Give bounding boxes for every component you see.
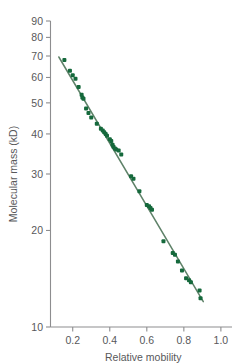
data-point	[89, 116, 93, 120]
y-tick-label-80: 80	[31, 31, 43, 43]
x-tick-label-1.0: 1.0	[214, 334, 229, 346]
data-point	[150, 208, 154, 212]
y-axis-title: Molecular mass (kD)	[7, 126, 19, 222]
data-point	[119, 153, 123, 157]
data-point	[176, 260, 180, 264]
data-point	[68, 69, 72, 73]
data-point	[74, 77, 78, 81]
data-point	[95, 122, 99, 126]
chart-figure: 1020304050607080900.20.40.60.81.0Relativ…	[0, 0, 241, 364]
data-point	[180, 269, 184, 273]
data-point	[77, 85, 81, 89]
y-tick-label-70: 70	[31, 50, 43, 62]
y-tick-label-20: 20	[31, 224, 43, 236]
data-point	[161, 239, 165, 243]
x-tick-label-0.2: 0.2	[65, 334, 80, 346]
data-point	[81, 97, 85, 101]
x-tick-label-0.6: 0.6	[140, 334, 155, 346]
data-point	[199, 296, 203, 300]
y-tick-label-30: 30	[31, 168, 43, 180]
data-point	[137, 189, 141, 193]
data-point	[109, 139, 113, 143]
data-point	[189, 280, 193, 284]
data-point	[105, 134, 109, 138]
data-point	[62, 58, 66, 62]
x-tick-label-0.4: 0.4	[102, 334, 117, 346]
x-tick-label-0.8: 0.8	[177, 334, 192, 346]
y-tick-label-60: 60	[31, 71, 43, 83]
y-tick-label-50: 50	[31, 97, 43, 109]
semilog-scatter-plot: 1020304050607080900.20.40.60.81.0Relativ…	[0, 0, 241, 364]
y-tick-label-90: 90	[31, 15, 43, 27]
data-point	[173, 253, 177, 257]
data-point	[117, 149, 121, 153]
data-point	[84, 107, 88, 111]
data-point	[86, 111, 90, 115]
data-point	[71, 73, 75, 77]
data-point	[198, 288, 202, 292]
y-tick-label-10: 10	[31, 321, 43, 333]
data-point	[131, 177, 135, 181]
y-tick-label-40: 40	[31, 128, 43, 140]
x-axis-title: Relative mobility	[105, 351, 182, 363]
